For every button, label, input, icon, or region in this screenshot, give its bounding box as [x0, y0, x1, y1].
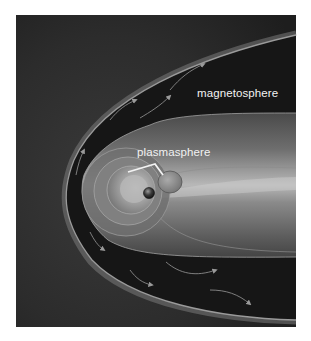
magnetosphere-diagram: magnetosphere plasmasphere [0, 0, 311, 341]
magnetosphere-label: magnetosphere [197, 88, 278, 100]
plasmasphere-label: plasmasphere [137, 147, 210, 159]
plasmasphere [82, 148, 170, 236]
earth-icon [144, 188, 155, 199]
diagram-canvas [0, 0, 311, 341]
